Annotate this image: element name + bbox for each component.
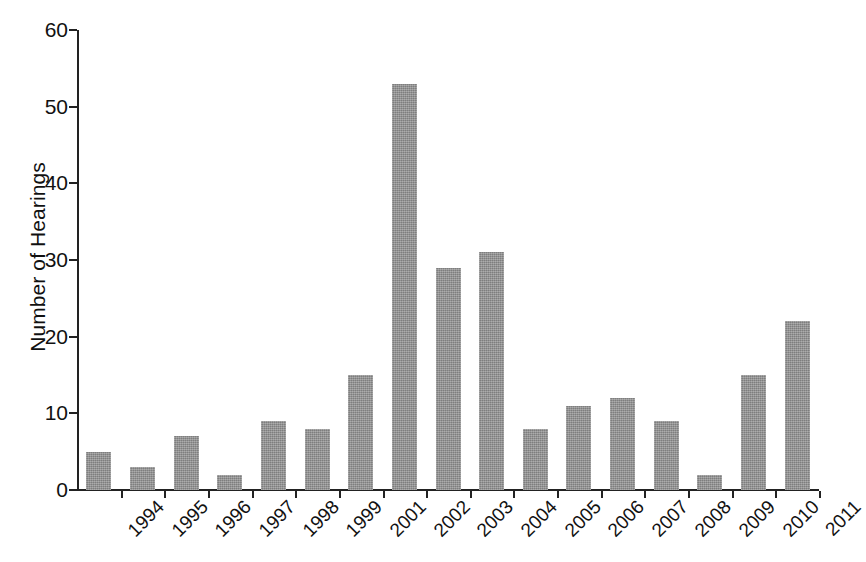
x-axis-tick-mark — [601, 491, 603, 498]
y-axis-tick-label: 10 — [28, 402, 68, 423]
x-axis-tick-label: 1999 — [342, 496, 387, 541]
bar — [217, 475, 242, 490]
x-axis-tick-label: 1998 — [298, 496, 343, 541]
x-axis-tick-label: 2002 — [429, 496, 474, 541]
bar — [436, 268, 461, 490]
x-axis-tick-labels: 1994199519961997199819992001200220032004… — [77, 496, 819, 562]
bar — [261, 421, 286, 490]
x-axis-tick-mark — [688, 491, 690, 498]
x-axis-tick-mark — [775, 491, 777, 498]
y-axis-tick-label: 0 — [28, 479, 68, 500]
y-axis-tick-labels: 0102030405060 — [28, 0, 68, 562]
y-axis-tick-mark — [69, 259, 77, 261]
x-axis-tick-mark — [470, 491, 472, 498]
x-axis-tick-label: 2011 — [821, 496, 865, 540]
x-axis-tick-label: 1995 — [167, 496, 212, 541]
x-axis-tick-label: 2007 — [647, 496, 692, 541]
bar — [785, 321, 810, 490]
x-axis-tick-label: 2003 — [473, 496, 518, 541]
x-axis-tick-label: 2008 — [691, 496, 736, 541]
y-axis-tick-label: 40 — [28, 172, 68, 193]
y-axis-tick-mark — [69, 29, 77, 31]
y-axis-tick-label: 50 — [28, 96, 68, 117]
bar — [697, 475, 722, 490]
x-axis-tick-mark — [557, 491, 559, 498]
x-axis-tick-mark — [819, 491, 821, 498]
bar — [130, 467, 155, 490]
x-axis-tick-label: 2006 — [604, 496, 649, 541]
x-axis-tick-mark — [513, 491, 515, 498]
bar — [86, 452, 111, 490]
x-axis-tick-mark — [732, 491, 734, 498]
bar — [610, 398, 635, 490]
x-axis-tick-mark — [121, 491, 123, 498]
x-axis-tick-mark — [339, 491, 341, 498]
x-axis-tick-mark — [644, 491, 646, 498]
x-axis-tick-label: 1996 — [211, 496, 256, 541]
y-axis-tick-label: 60 — [28, 19, 68, 40]
x-axis-tick-label: 1994 — [123, 496, 168, 541]
y-axis-tick-mark — [69, 489, 77, 491]
y-axis-tick-label: 30 — [28, 249, 68, 270]
plot-area — [77, 30, 819, 490]
y-axis-tick-label: 20 — [28, 326, 68, 347]
bar — [392, 84, 417, 490]
bar — [654, 421, 679, 490]
bar — [523, 429, 548, 490]
bar — [479, 252, 504, 490]
x-axis-tick-mark — [164, 491, 166, 498]
x-axis-tick-label: 2004 — [516, 496, 561, 541]
bar — [566, 406, 591, 490]
x-axis-tick-label: 2001 — [385, 496, 430, 541]
y-axis-tick-mark — [69, 106, 77, 108]
bar — [348, 375, 373, 490]
bar — [305, 429, 330, 490]
x-axis-tick-label: 2005 — [560, 496, 605, 541]
x-axis-tick-label: 1997 — [254, 496, 299, 541]
x-axis-tick-mark — [208, 491, 210, 498]
x-axis-tick-mark — [295, 491, 297, 498]
x-axis-tick-label: 2010 — [778, 496, 823, 541]
x-axis-tick-label: 2009 — [734, 496, 779, 541]
y-axis-tick-mark — [69, 182, 77, 184]
x-axis-tick-mark — [252, 491, 254, 498]
bar — [174, 436, 199, 490]
bar — [741, 375, 766, 490]
y-axis-tick-mark — [69, 336, 77, 338]
x-axis-tick-mark — [383, 491, 385, 498]
x-axis-tick-mark — [426, 491, 428, 498]
y-axis-tick-mark — [69, 412, 77, 414]
